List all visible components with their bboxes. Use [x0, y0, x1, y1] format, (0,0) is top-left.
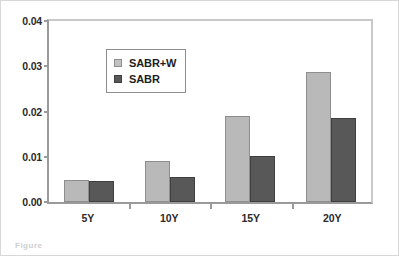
- y-axis-tick-label: 0.03: [22, 60, 49, 72]
- bar-sabr-w-20y: [306, 72, 331, 202]
- y-axis-tick-label: 0.04: [22, 15, 49, 27]
- x-axis-tick-text: 10Y: [160, 212, 178, 224]
- legend-swatch-icon: [114, 59, 122, 67]
- x-axis-tick-label: 15Y: [210, 204, 292, 230]
- bar-group: [291, 21, 372, 202]
- x-axis-tick-label: 20Y: [292, 204, 374, 230]
- bar-sabr-5y: [89, 181, 114, 202]
- x-axis-tick-label: 10Y: [129, 204, 211, 230]
- y-axis-tick-label: 0.02: [22, 106, 49, 118]
- x-axis-tick-text: 5Y: [81, 212, 94, 224]
- legend-label: SABR+W: [129, 57, 176, 69]
- bar-sabr-10y: [170, 177, 195, 202]
- x-axis-tick-text: 15Y: [242, 212, 260, 224]
- legend-label: SABR: [129, 73, 160, 85]
- chart-legend: SABR+WSABR: [106, 49, 186, 93]
- legend-item: SABR: [114, 71, 176, 87]
- bar-sabr-15y: [250, 156, 275, 202]
- x-axis-tick-label: 5Y: [47, 204, 129, 230]
- figure-caption: Figure: [15, 241, 42, 250]
- x-axis-tick-mark: [210, 204, 212, 209]
- plot-area: 0.000.010.020.030.04 SABR+WSABR: [47, 19, 373, 204]
- bar-sabr-w-5y: [64, 180, 89, 202]
- y-axis-tick-label: 0.00: [22, 196, 49, 208]
- bar-sabr-w-15y: [225, 116, 250, 202]
- legend-item: SABR+W: [114, 55, 176, 71]
- bars-layer: [49, 21, 371, 202]
- x-axis-tick-text: 20Y: [323, 212, 341, 224]
- x-axis: 5Y10Y15Y20Y: [47, 204, 373, 230]
- x-axis-tick-mark: [129, 204, 131, 209]
- chart-figure: 0.000.010.020.030.04 SABR+WSABR 5Y10Y15Y…: [0, 0, 399, 256]
- bar-sabr-20y: [331, 118, 356, 202]
- legend-swatch-icon: [114, 75, 122, 83]
- y-axis-tick-label: 0.01: [22, 151, 49, 163]
- bar-group: [210, 21, 291, 202]
- bar-sabr-w-10y: [145, 161, 170, 202]
- x-axis-tick-mark: [292, 204, 294, 209]
